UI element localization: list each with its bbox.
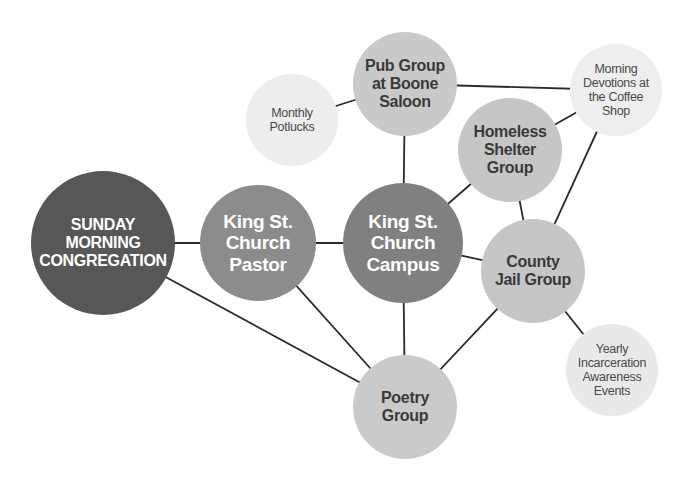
node-label: Monthly Potlucks — [270, 106, 315, 134]
node-label: Morning Devotions at the Coffee Shop — [583, 62, 649, 118]
node-label: Homeless Shelter Group — [473, 123, 546, 177]
node-label: King St. Church Campus — [366, 211, 439, 275]
node-poetry: Poetry Group — [353, 355, 457, 459]
node-label: Poetry Group — [381, 389, 429, 425]
node-campus: King St. Church Campus — [343, 183, 463, 303]
node-label: County Jail Group — [495, 253, 571, 289]
node-label: King St. Church Pastor — [223, 211, 292, 275]
node-potlucks: Monthly Potlucks — [246, 74, 338, 166]
node-sunday: SUNDAY MORNING CONGREGATION — [31, 171, 175, 315]
node-jail: County Jail Group — [481, 219, 585, 323]
node-label: Yearly Incarceration Awareness Events — [578, 342, 646, 398]
node-label: Pub Group at Boone Saloon — [365, 57, 445, 111]
node-pastor: King St. Church Pastor — [200, 185, 316, 301]
node-label: SUNDAY MORNING CONGREGATION — [39, 216, 167, 270]
node-devotions: Morning Devotions at the Coffee Shop — [570, 44, 662, 136]
node-pub: Pub Group at Boone Saloon — [353, 32, 457, 136]
node-shelter: Homeless Shelter Group — [458, 98, 562, 202]
node-yearly: Yearly Incarceration Awareness Events — [566, 324, 658, 416]
